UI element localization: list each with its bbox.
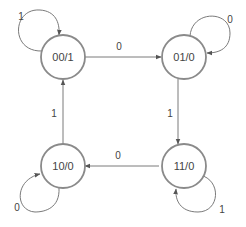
edge-label-01-0-self: 0 xyxy=(227,14,233,25)
edge-label-00-1-to-01-0: 0 xyxy=(116,41,122,52)
edge-01-0-to-11-0: 1 xyxy=(167,79,178,144)
edge-label-11-0-self: 1 xyxy=(219,204,225,215)
edge-label-11-0-to-10-0: 0 xyxy=(115,150,121,161)
state-11-0: 11/0 xyxy=(162,144,206,188)
state-label-01-0: 01/0 xyxy=(173,51,194,63)
edge-11-0-to-10-0: 0 xyxy=(85,150,159,167)
edge-label-10-0-self: 0 xyxy=(14,202,20,213)
state-10-0: 10/0 xyxy=(41,144,85,188)
state-label-00-1: 00/1 xyxy=(52,51,73,63)
state-00-1: 00/1 xyxy=(41,35,85,79)
edge-10-0-to-00-1: 1 xyxy=(51,80,63,145)
edge-label-01-0-to-11-0: 1 xyxy=(167,108,173,119)
state-label-10-0: 10/0 xyxy=(52,160,73,172)
edge-label-10-0-to-00-1: 1 xyxy=(51,108,57,119)
state-label-11-0: 11/0 xyxy=(174,160,195,172)
state-01-0: 01/0 xyxy=(162,35,206,79)
edge-label-00-1-self: 1 xyxy=(18,11,24,22)
edge-00-1-to-01-0: 0 xyxy=(85,41,161,58)
state-diagram: 1 0 0 1 1 0 0 1 00/1 01/0 xyxy=(0,0,246,227)
